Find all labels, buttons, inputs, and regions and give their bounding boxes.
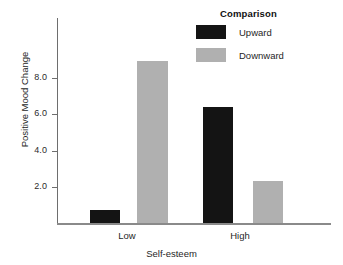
- x-tick-label-low: Low: [97, 230, 157, 241]
- bar-chart: 8.0 6.0 4.0 2.0 Positive Mood Change Low…: [0, 0, 343, 265]
- legend: Comparison Upward Downward: [196, 8, 336, 71]
- legend-entry-downward: Downward: [196, 48, 336, 62]
- legend-swatch-upward: [196, 25, 226, 39]
- legend-label-upward: Upward: [239, 27, 272, 38]
- legend-entry-upward: Upward: [196, 25, 336, 39]
- x-tick-label-high: High: [210, 230, 270, 241]
- y-tick-label-2: 2.0: [7, 181, 47, 191]
- legend-label-downward: Downward: [239, 50, 284, 61]
- bar-low-downward: [137, 61, 168, 223]
- x-axis-line: [57, 223, 331, 225]
- bar-high-downward: [253, 181, 283, 223]
- bar-high-upward: [203, 107, 233, 223]
- x-axis-title: Self-esteem: [0, 248, 343, 259]
- bar-low-upward: [90, 210, 120, 223]
- legend-swatch-downward: [196, 48, 226, 62]
- legend-title: Comparison: [220, 8, 336, 19]
- y-axis-title: Positive Mood Change: [19, 30, 30, 170]
